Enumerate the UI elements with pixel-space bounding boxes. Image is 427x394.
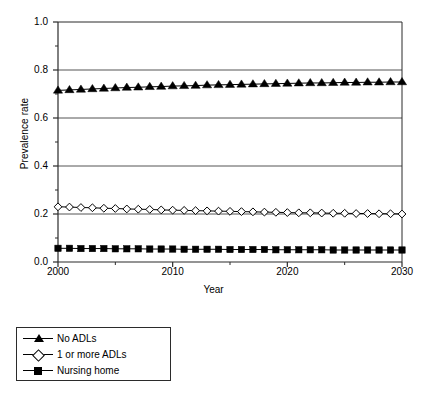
data-point-marker	[191, 81, 200, 88]
data-point-marker	[386, 78, 395, 85]
data-point-marker	[54, 203, 62, 211]
data-point-marker	[341, 209, 349, 217]
data-point-marker	[353, 247, 359, 253]
data-point-marker	[134, 205, 142, 213]
data-point-marker	[363, 78, 372, 85]
data-point-marker	[65, 85, 74, 92]
data-point-marker	[147, 246, 153, 252]
data-point-marker	[341, 247, 347, 253]
data-point-marker	[352, 210, 360, 218]
data-point-marker	[55, 245, 61, 251]
data-point-marker	[214, 80, 223, 87]
data-point-marker	[227, 246, 233, 252]
data-point-marker	[248, 80, 257, 87]
legend-entry-no-adls: No ADLs	[23, 331, 96, 347]
data-point-marker	[100, 204, 108, 212]
data-point-marker	[225, 80, 234, 87]
data-point-marker	[271, 79, 280, 86]
legend-label-nursing-home: Nursing home	[53, 366, 119, 376]
data-point-marker	[273, 247, 279, 253]
data-point-marker	[78, 245, 84, 251]
data-point-marker	[158, 246, 164, 252]
data-point-marker	[329, 209, 337, 217]
data-point-marker	[66, 203, 74, 211]
data-point-marker	[387, 247, 393, 253]
data-point-marker	[399, 247, 405, 253]
data-point-marker	[134, 83, 143, 90]
data-point-marker	[295, 209, 303, 217]
data-point-marker	[330, 247, 336, 253]
data-point-marker	[168, 82, 177, 89]
chart-figure: Prevalence rate Year 0.00.20.40.60.81.02…	[0, 0, 427, 394]
data-point-marker	[181, 246, 187, 252]
data-point-marker	[112, 246, 118, 252]
data-point-marker	[317, 78, 326, 85]
data-point-marker	[375, 210, 383, 218]
data-point-marker	[204, 246, 210, 252]
data-point-marker	[88, 84, 97, 91]
data-point-marker	[169, 246, 175, 252]
data-point-marker	[261, 246, 267, 252]
legend-label-one-or-more-adls: 1 or more ADLs	[53, 350, 126, 360]
data-point-marker	[374, 78, 383, 85]
data-point-marker	[53, 86, 62, 93]
data-point-marker	[77, 204, 85, 212]
data-point-marker	[319, 247, 325, 253]
data-point-marker	[296, 247, 302, 253]
legend-entry-nursing-home: Nursing home	[23, 363, 119, 379]
data-point-marker	[76, 85, 85, 92]
data-point-marker	[215, 246, 221, 252]
data-point-marker	[307, 247, 313, 253]
data-point-marker	[122, 83, 131, 90]
data-point-marker	[352, 78, 361, 85]
data-point-marker	[157, 206, 165, 214]
data-point-marker	[111, 84, 120, 91]
data-point-marker	[398, 210, 406, 218]
data-point-marker	[180, 81, 189, 88]
data-point-marker	[250, 246, 256, 252]
data-point-marker	[123, 205, 131, 213]
data-point-marker	[306, 209, 314, 217]
triangle-marker-icon	[23, 331, 53, 347]
data-point-marker	[145, 82, 154, 89]
data-point-marker	[89, 245, 95, 251]
data-point-marker	[364, 247, 370, 253]
data-point-marker	[237, 80, 246, 87]
legend-entry-one-or-more-adls: 1 or more ADLs	[23, 347, 126, 363]
square-marker-icon	[23, 363, 53, 379]
data-point-marker	[202, 81, 211, 88]
data-point-marker	[283, 209, 291, 217]
data-point-marker	[272, 208, 280, 216]
chart-legend: No ADLs 1 or more ADLs Nursing home	[16, 327, 171, 381]
data-point-marker	[376, 247, 382, 253]
legend-label-no-adls: No ADLs	[53, 334, 96, 344]
data-point-marker	[340, 78, 349, 85]
data-point-marker	[238, 246, 244, 252]
data-point-marker	[260, 79, 269, 86]
data-point-marker	[146, 206, 154, 214]
data-point-marker	[364, 210, 372, 218]
data-point-marker	[387, 210, 395, 218]
data-point-marker	[124, 246, 130, 252]
data-point-marker	[192, 246, 198, 252]
data-point-marker	[261, 208, 269, 216]
data-point-marker	[180, 207, 188, 215]
data-point-marker	[284, 247, 290, 253]
data-point-marker	[329, 78, 338, 85]
data-point-marker	[318, 209, 326, 217]
data-point-marker	[306, 78, 315, 85]
data-point-marker	[192, 207, 200, 215]
data-point-marker	[111, 205, 119, 213]
data-point-marker	[294, 79, 303, 86]
data-point-marker	[283, 79, 292, 86]
data-point-marker	[157, 82, 166, 89]
diamond-marker-icon	[23, 347, 53, 363]
data-point-marker	[135, 246, 141, 252]
data-point-marker	[99, 84, 108, 91]
data-point-marker	[89, 204, 97, 212]
data-point-marker	[397, 78, 406, 85]
data-point-marker	[66, 245, 72, 251]
data-point-marker	[101, 245, 107, 251]
data-point-marker	[169, 206, 177, 214]
data-point-marker	[249, 208, 257, 216]
